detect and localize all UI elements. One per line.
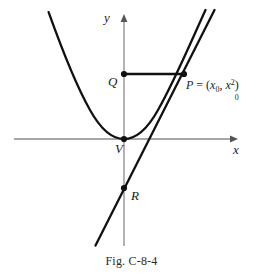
point-r-marker (121, 185, 127, 191)
point-label-q: Q (108, 75, 117, 88)
y-axis-arrowhead (121, 14, 128, 22)
parabola-tangent-plot (0, 0, 263, 275)
point-label-v: V (115, 142, 123, 155)
point-label-r: R (131, 189, 139, 202)
y-axis-label: y (104, 11, 110, 24)
tangent-line (96, 10, 215, 246)
point-label-p: P = (x0, x20) (186, 79, 239, 94)
point-p-marker (181, 71, 187, 77)
figure-caption: Fig. C-8-4 (0, 254, 263, 269)
y-axis (121, 14, 128, 246)
figure-container: y x Q V R P = (x0, x20) Fig. C-8-4 (0, 0, 263, 275)
point-q-marker (121, 71, 127, 77)
label-p-equals: = ( (193, 78, 210, 92)
x-axis-label: x (233, 143, 239, 156)
label-p-close: ) (235, 78, 239, 92)
